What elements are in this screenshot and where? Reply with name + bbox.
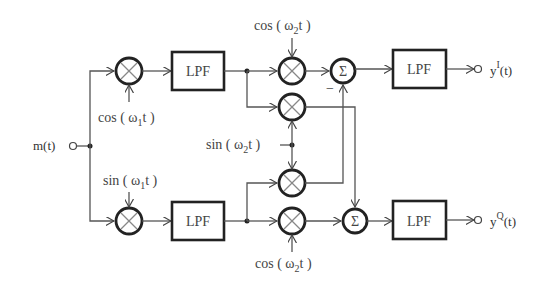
summer-top: Σ <box>331 59 355 83</box>
mixer-sin-w2-lower <box>279 170 305 196</box>
output-terminal-i-icon <box>475 66 482 73</box>
mixer-cos-w1 <box>116 58 142 84</box>
lpf-3: LPF <box>393 50 446 88</box>
svg-text:LPF: LPF <box>186 214 210 229</box>
mixer-cos-w2-top <box>279 58 305 84</box>
mixer-sin-w1 <box>116 208 142 234</box>
output-terminal-q-icon <box>475 217 482 224</box>
carrier-label-sin-w1: sin ( ω1t ) <box>103 173 158 191</box>
weaver-modulator-diagram: m(t) cos ( ω1t ) sin ( ω1t ) LPF LPF <box>0 0 549 289</box>
lpf-1: LPF <box>172 52 224 90</box>
svg-text:LPF: LPF <box>407 62 431 77</box>
carrier-label-cos-w2-bottom: cos ( ω2t ) <box>255 256 312 274</box>
svg-text:Σ: Σ <box>351 214 359 229</box>
mixer-sin-w2-upper <box>279 94 305 120</box>
input-label: m(t) <box>33 138 55 153</box>
mixer-cos-w2-bottom <box>279 208 305 234</box>
carrier-label-cos-w2-top: cos ( ω2t ) <box>254 18 311 36</box>
summer-bottom: Σ <box>343 209 367 233</box>
svg-text:LPF: LPF <box>407 214 431 229</box>
wire-to-mixer-cos1 <box>90 71 114 146</box>
lpf-2: LPF <box>172 202 224 240</box>
carrier-label-cos-w1: cos ( ω1t ) <box>98 110 155 128</box>
lpf-4: LPF <box>393 201 446 239</box>
minus-sign: − <box>326 81 334 96</box>
output-label-i: yI(t) <box>490 59 512 78</box>
svg-text:LPF: LPF <box>186 64 210 79</box>
svg-text:Σ: Σ <box>339 64 347 79</box>
output-label-q: yQ(t) <box>490 210 516 229</box>
input-terminal-icon <box>70 143 77 150</box>
input-port: m(t) <box>33 138 93 153</box>
carrier-label-sin-w2: sin ( ω2t ) <box>206 137 261 155</box>
